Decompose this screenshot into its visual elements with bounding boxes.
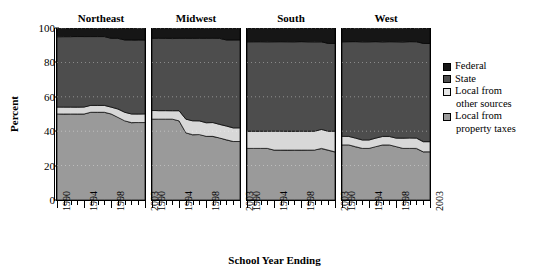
panel-midwest xyxy=(151,28,241,200)
area-state xyxy=(247,41,335,131)
x-axis-minor-tick xyxy=(315,201,316,205)
x-axis-minor-tick xyxy=(104,201,105,205)
x-axis-minor-tick xyxy=(281,201,282,205)
y-axis-title: Percent xyxy=(8,79,20,149)
x-axis-major-tick xyxy=(206,201,207,208)
x-axis-minor-tick xyxy=(125,201,126,205)
area-federal xyxy=(247,28,335,43)
x-axis-minor-tick xyxy=(138,201,139,205)
legend-item-0[interactable]: Federal xyxy=(443,60,547,73)
x-axis-minor-tick xyxy=(294,201,295,205)
x-axis-minor-tick xyxy=(389,201,390,205)
panel-plot-midwest xyxy=(152,28,240,200)
x-axis-major-tick xyxy=(152,201,153,208)
legend-label-continued: property taxes xyxy=(456,123,547,136)
y-axis-tick-label: 40 xyxy=(25,126,55,137)
x-axis-major-tick xyxy=(335,201,336,208)
legend-swatch-icon xyxy=(443,88,451,96)
y-axis-tick-label: 0 xyxy=(25,195,55,206)
x-axis-tick-label: 2003 xyxy=(434,191,445,211)
legend-item-2[interactable]: Local from xyxy=(443,85,547,98)
x-axis-minor-tick xyxy=(349,201,350,205)
x-axis-minor-tick xyxy=(118,201,119,205)
area-state xyxy=(342,41,430,141)
x-axis-major-tick xyxy=(145,201,146,208)
x-axis-major-tick xyxy=(247,201,248,208)
y-axis-tick-label: 80 xyxy=(25,57,55,68)
x-axis-minor-tick xyxy=(328,201,329,205)
panel-title-west: West xyxy=(341,11,431,25)
x-axis-minor-tick xyxy=(410,201,411,205)
panel-south xyxy=(246,28,336,200)
y-axis-tick-label: 20 xyxy=(25,160,55,171)
legend-swatch-icon xyxy=(443,63,451,71)
x-axis-major-tick xyxy=(301,201,302,208)
x-axis-minor-tick xyxy=(98,201,99,205)
x-axis-minor-tick xyxy=(199,201,200,205)
x-axis-major-tick xyxy=(369,201,370,208)
x-axis-major-tick xyxy=(342,201,343,208)
x-axis-minor-tick xyxy=(383,201,384,205)
panel-title-midwest: Midwest xyxy=(151,11,241,25)
x-axis-minor-tick xyxy=(172,201,173,205)
y-axis-line xyxy=(54,28,55,201)
legend-item-1[interactable]: State xyxy=(443,73,547,86)
panel-plot-south xyxy=(247,28,335,200)
x-axis-minor-tick xyxy=(131,201,132,205)
legend: FederalStateLocal fromother sourcesLocal… xyxy=(443,60,547,135)
x-axis-minor-tick xyxy=(416,201,417,205)
area-federal xyxy=(152,28,240,40)
x-axis-minor-tick xyxy=(254,201,255,205)
x-axis-minor-tick xyxy=(213,201,214,205)
panel-west xyxy=(341,28,431,200)
x-axis-minor-tick xyxy=(186,201,187,205)
legend-label: State xyxy=(455,73,476,86)
x-axis-minor-tick xyxy=(71,201,72,205)
x-axis-major-tick xyxy=(179,201,180,208)
x-axis-minor-tick xyxy=(233,201,234,205)
panel-plot-northeast xyxy=(57,28,145,200)
legend-label: Local from xyxy=(455,110,502,123)
x-axis-major-tick xyxy=(396,201,397,208)
panel-northeast xyxy=(56,28,146,200)
x-axis-minor-tick xyxy=(226,201,227,205)
x-axis-minor-tick xyxy=(193,201,194,205)
x-axis-minor-tick xyxy=(220,201,221,205)
chart-figure: Percent 100806040200 School Year Ending … xyxy=(0,0,549,277)
x-axis-minor-tick xyxy=(159,201,160,205)
x-axis-minor-tick xyxy=(362,201,363,205)
x-axis-minor-tick xyxy=(376,201,377,205)
x-axis-minor-tick xyxy=(166,201,167,205)
x-axis-minor-tick xyxy=(77,201,78,205)
panel-title-south: South xyxy=(246,11,336,25)
x-axis-major-tick xyxy=(240,201,241,208)
legend-label: Federal xyxy=(455,60,487,73)
x-axis-major-tick xyxy=(57,201,58,208)
area-federal xyxy=(342,28,430,43)
y-axis-tick-label: 60 xyxy=(25,91,55,102)
legend-item-3[interactable]: Local from xyxy=(443,110,547,123)
legend-swatch-icon xyxy=(443,75,451,83)
x-axis-major-tick xyxy=(274,201,275,208)
legend-swatch-icon xyxy=(443,113,451,121)
x-axis-minor-tick xyxy=(288,201,289,205)
x-axis-minor-tick xyxy=(91,201,92,205)
area-local-from-property-taxes xyxy=(57,112,145,200)
x-axis-title: School Year Ending xyxy=(0,254,549,266)
x-axis-minor-tick xyxy=(321,201,322,205)
x-axis-minor-tick xyxy=(423,201,424,205)
y-axis-tick-label: 100 xyxy=(25,23,55,34)
x-axis-minor-tick xyxy=(64,201,65,205)
legend-label-continued: other sources xyxy=(456,98,547,111)
area-local-from-other-sources xyxy=(247,129,335,151)
panel-plot-west xyxy=(342,28,430,200)
x-axis-minor-tick xyxy=(267,201,268,205)
area-state xyxy=(57,36,145,114)
panel-title-northeast: Northeast xyxy=(56,11,146,25)
x-axis-major-tick xyxy=(111,201,112,208)
x-axis-minor-tick xyxy=(261,201,262,205)
y-axis: 100806040200 xyxy=(22,28,55,200)
legend-label: Local from xyxy=(455,85,502,98)
x-axis-minor-tick xyxy=(308,201,309,205)
x-axis-minor-tick xyxy=(356,201,357,205)
